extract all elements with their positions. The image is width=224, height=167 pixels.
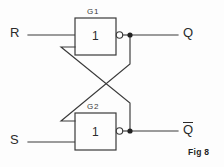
gate-symbol-g2: 1 bbox=[92, 126, 99, 138]
overbar-line-icon bbox=[183, 122, 193, 123]
overbar-group: Q bbox=[183, 122, 193, 136]
figure-caption: Fig 8 bbox=[188, 148, 209, 157]
output-label-q: Q bbox=[183, 26, 193, 39]
input-label-s: S bbox=[10, 133, 19, 146]
logic-diagram-figure: R S Q Q G1 G2 1 1 Fig 8 bbox=[0, 0, 224, 167]
input-label-r: R bbox=[10, 26, 20, 39]
gate-g2-output-bubble-icon bbox=[116, 128, 122, 134]
junction-dot-qbar bbox=[127, 128, 132, 133]
output-label-qbar: Q bbox=[183, 122, 193, 136]
gate-label-g1: G1 bbox=[87, 8, 99, 16]
output-label-qbar-text: Q bbox=[183, 122, 193, 137]
gate-g1-output-bubble-icon bbox=[116, 32, 122, 38]
gate-symbol-g1: 1 bbox=[92, 30, 99, 42]
junction-dot-q bbox=[127, 32, 132, 37]
gate-label-g2: G2 bbox=[87, 103, 99, 111]
